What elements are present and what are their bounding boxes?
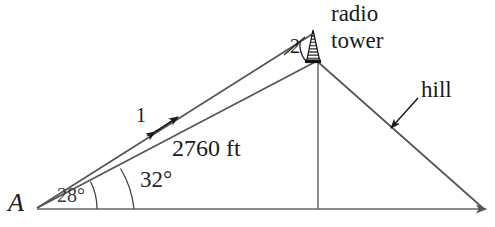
radio-tower-base-icon	[305, 60, 321, 64]
distance-double-arrow	[155, 117, 178, 132]
hill-right-slope	[318, 62, 484, 209]
geometry-diagram: A 28° 32° 2760 ft 1 2 radio tower hill	[0, 0, 495, 227]
vertex-label-a: A	[8, 190, 24, 216]
radio-tower-label-line-2: tower	[331, 29, 383, 52]
angle-label-32: 32°	[140, 168, 172, 191]
angle-label-28: 28°	[57, 185, 85, 205]
sight-line-to-tower-top	[37, 33, 314, 208]
angle-arc-28	[91, 182, 98, 210]
angle-arc-2	[300, 42, 305, 60]
angle-label-1: 1	[136, 105, 146, 125]
hill-label: hill	[421, 78, 452, 101]
radio-tower-label-line-1: radio	[331, 2, 378, 25]
angle-label-2: 2	[290, 36, 300, 56]
hill-leader-line	[391, 98, 418, 128]
distance-label: 2760 ft	[172, 136, 241, 160]
radio-tower-icon	[307, 30, 321, 62]
angle-arc-32	[121, 169, 135, 210]
